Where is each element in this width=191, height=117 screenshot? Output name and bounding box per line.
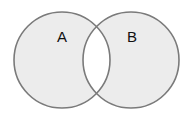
venn-diagram: A B xyxy=(0,0,191,117)
set-a-label: A xyxy=(57,28,67,45)
set-b-label: B xyxy=(127,28,137,45)
